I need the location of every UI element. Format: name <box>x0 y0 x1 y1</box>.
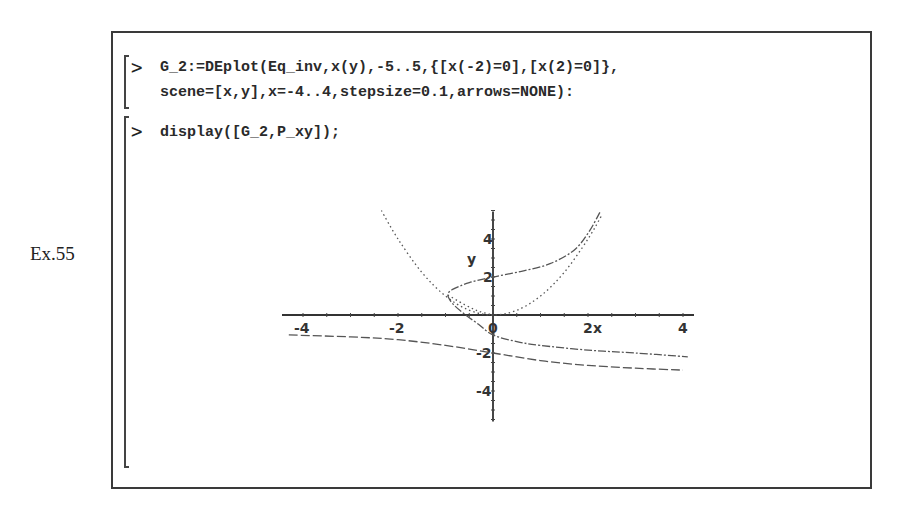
plot-output[interactable]: -4-202442-2-4xy <box>0 0 902 515</box>
x-tick-label: 2 <box>583 320 593 336</box>
y-tick-label: 4 <box>483 231 493 247</box>
plot-curve <box>448 295 493 315</box>
plot-curve <box>381 211 602 316</box>
y-tick-label: -4 <box>476 383 492 399</box>
plot-curve <box>289 335 683 370</box>
x-axis-label: x <box>593 320 602 336</box>
x-tick-label: -2 <box>389 320 405 336</box>
x-tick-label: 4 <box>678 320 688 336</box>
x-tick-label: -4 <box>294 320 310 336</box>
y-tick-label: -2 <box>476 345 492 361</box>
y-axis-label: y <box>467 251 476 267</box>
